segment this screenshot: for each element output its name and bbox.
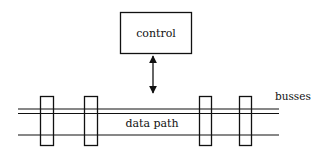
register-4	[240, 97, 252, 146]
register-1	[41, 97, 54, 146]
datapath-label: data path	[125, 117, 178, 130]
control-unit: control	[121, 13, 192, 54]
busses-label: busses	[275, 90, 311, 102]
register-2	[85, 97, 98, 146]
control-label: control	[136, 27, 176, 40]
diagram-canvas: control data path busses	[0, 0, 324, 157]
register-3	[200, 97, 212, 146]
